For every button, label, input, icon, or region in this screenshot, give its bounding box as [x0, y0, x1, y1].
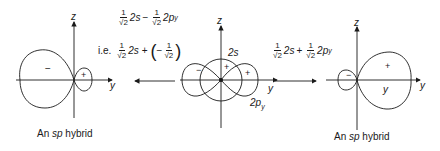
caption-suffix: hybrid	[360, 131, 390, 142]
close-paren: )	[175, 42, 181, 60]
fraction: 1√2	[118, 8, 129, 27]
caption-prefix: An	[334, 131, 349, 142]
fraction: 1√2	[305, 41, 316, 60]
negative-sign: −	[157, 45, 163, 56]
center-z-label: z	[217, 15, 222, 26]
right-equation: 1√2 2s + 1√2 2py	[271, 41, 332, 60]
p-orbital-label: 2py	[250, 97, 265, 110]
subscript-y: y	[174, 14, 178, 21]
operator: −	[142, 12, 148, 23]
center-y-label: y	[268, 83, 273, 94]
caption-sp: sp	[349, 131, 360, 142]
term-2s: 2s	[284, 45, 295, 56]
left-z-label: z	[71, 11, 76, 22]
right-hybrid-diagram	[326, 27, 420, 130]
ie-prefix: i.e.	[98, 45, 111, 56]
p-pos-lobe-sign: +	[245, 68, 250, 78]
operator: +	[296, 45, 302, 56]
left-y-label: y	[110, 80, 115, 91]
term-2p: 2p	[317, 45, 328, 56]
fraction: 1√2	[151, 8, 162, 27]
right-z-label: z	[354, 17, 359, 28]
fraction: 1√2	[163, 41, 174, 60]
s-orbital-label: 2s	[228, 47, 239, 58]
caption-prefix: An	[37, 128, 52, 139]
term-2s: 2s	[128, 45, 139, 56]
operator: +	[142, 45, 148, 56]
fraction: 1√2	[272, 41, 283, 60]
left-big-lobe	[20, 50, 74, 108]
caption-suffix: hybrid	[63, 128, 93, 139]
center-diagram	[180, 26, 277, 128]
term-2p: 2p	[163, 12, 174, 23]
left-equation-line2: i.e. 1√2 2s + ( − 1√2 )	[98, 41, 181, 60]
left-equation-line1: 1√2 2s − 1√2 2py	[117, 8, 178, 27]
fraction: 1√2	[116, 41, 127, 60]
caption-sp: sp	[52, 128, 63, 139]
right-hybrid-caption: An sp hybrid	[334, 131, 390, 142]
right-inner-y-label: y	[383, 84, 388, 95]
right-y-label: y	[420, 80, 425, 91]
s-orbital-sign: +	[224, 62, 229, 72]
subscript-y: y	[328, 47, 332, 54]
p-neg-lobe-sign: −	[196, 65, 201, 75]
left-big-lobe-sign: −	[45, 63, 51, 74]
left-hybrid-diagram	[16, 22, 112, 118]
right-big-lobe-sign: +	[385, 61, 390, 71]
right-small-lobe-sign: −	[346, 70, 351, 80]
left-hybrid-caption: An sp hybrid	[37, 128, 93, 139]
term-2s: 2s	[130, 12, 141, 23]
left-small-lobe-sign: +	[81, 70, 86, 80]
